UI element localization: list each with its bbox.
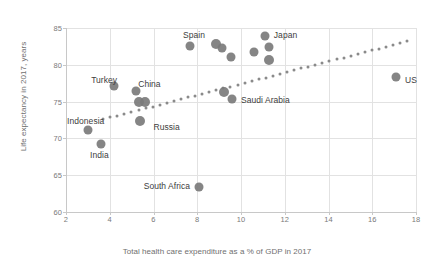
point-label-south-africa: South Africa	[144, 181, 190, 191]
x-tick-mark	[416, 212, 417, 215]
trendline-dot	[399, 42, 402, 45]
trendline-dot	[356, 52, 359, 55]
y-tick-label: 75	[40, 97, 62, 106]
point-label-india: India	[90, 150, 109, 160]
trendline-dot	[130, 111, 133, 114]
point-label-indonesia: Indonesia	[67, 116, 104, 126]
gridline-vertical	[285, 28, 286, 212]
trendline-dot	[201, 92, 204, 95]
data-point[interactable]	[264, 55, 274, 65]
trendline-dot	[194, 94, 197, 97]
point-label-russia: Russia	[154, 122, 180, 132]
x-axis-title: Total health care expenditure as a % of …	[0, 247, 434, 256]
trendline-dot	[349, 54, 352, 57]
x-tick-mark	[241, 212, 242, 215]
plot-area: SpainJapanUSTurkeyChinaSaudi ArabiaIndon…	[66, 28, 416, 212]
trendline-dot	[300, 67, 303, 70]
trendline-dot	[278, 72, 281, 75]
data-point[interactable]	[228, 95, 237, 104]
x-tick-mark	[66, 212, 67, 215]
y-tick-label: 85	[40, 24, 62, 33]
data-point[interactable]	[140, 97, 150, 107]
trendline-dot	[293, 69, 296, 72]
data-point-us[interactable]	[392, 72, 401, 81]
data-point-india[interactable]	[97, 140, 106, 149]
trendline-dot	[321, 62, 324, 65]
point-label-spain: Spain	[183, 30, 205, 40]
x-tick-label: 10	[237, 215, 246, 224]
trendline-dot	[314, 63, 317, 66]
trendline-dot	[158, 103, 161, 106]
y-tick-label: 65	[40, 171, 62, 180]
point-label-turkey: Turkey	[91, 75, 117, 85]
gridline-vertical	[110, 28, 111, 212]
trendline-dot	[109, 116, 112, 119]
point-label-china: China	[138, 79, 160, 89]
y-tick-mark	[63, 175, 66, 176]
trendline-dot	[243, 81, 246, 84]
x-tick-label: 8	[195, 215, 199, 224]
trendline-dot	[123, 112, 126, 115]
data-point[interactable]	[265, 43, 274, 52]
gridline-horizontal	[66, 28, 416, 29]
trendline-dot	[370, 49, 373, 52]
trendline-dot	[137, 109, 140, 112]
data-point[interactable]	[218, 43, 227, 52]
gridline-vertical	[241, 28, 242, 212]
trendline-dot	[342, 56, 345, 59]
data-point-spain[interactable]	[185, 42, 194, 51]
trendline-dot	[187, 96, 190, 99]
trendline-dot	[286, 71, 289, 74]
point-label-saudi-arabia: Saudi Arabia	[241, 95, 290, 105]
trendline-dot	[179, 98, 182, 101]
x-tick-mark	[154, 212, 155, 215]
x-tick-label: 6	[151, 215, 155, 224]
trendline-dot	[257, 78, 260, 81]
trendline-dot	[271, 74, 274, 77]
y-axis-title: Life expectancy in 2017, years	[19, 12, 28, 182]
gridline-vertical	[329, 28, 330, 212]
trendline-dot	[172, 100, 175, 103]
y-tick-label: 80	[40, 60, 62, 69]
trendline-dot	[250, 80, 253, 83]
trendline-dot	[208, 91, 211, 94]
x-tick-mark	[329, 212, 330, 215]
y-tick-label: 60	[40, 208, 62, 217]
y-tick-label: 70	[40, 134, 62, 143]
x-tick-label: 18	[412, 215, 421, 224]
gridline-vertical	[372, 28, 373, 212]
data-point[interactable]	[227, 53, 236, 62]
trendline-dot	[335, 58, 338, 61]
point-label-japan: Japan	[274, 30, 297, 40]
trendline-dot	[215, 89, 218, 92]
x-tick-label: 16	[368, 215, 377, 224]
trendline-dot	[392, 43, 395, 46]
x-tick-label: 4	[108, 215, 112, 224]
trendline-dot	[307, 65, 310, 68]
trendline-dot	[236, 83, 239, 86]
trendline-dot	[116, 114, 119, 117]
trendline-dot	[377, 47, 380, 50]
x-tick-label: 12	[280, 215, 289, 224]
x-tick-label: 14	[324, 215, 333, 224]
y-tick-mark	[63, 138, 66, 139]
y-tick-mark	[63, 212, 66, 213]
data-point-japan[interactable]	[261, 32, 270, 41]
trendline-dot	[385, 45, 388, 48]
gridline-vertical	[416, 28, 417, 212]
data-point[interactable]	[219, 87, 229, 97]
gridline-horizontal	[66, 175, 416, 176]
y-tick-mark	[63, 65, 66, 66]
trendline-dot	[151, 105, 154, 108]
trendline-dot	[165, 101, 168, 104]
data-point[interactable]	[250, 47, 259, 56]
gridline-horizontal	[66, 138, 416, 139]
gridline-horizontal	[66, 65, 416, 66]
data-point-south-africa[interactable]	[195, 182, 204, 191]
x-tick-label: 2	[64, 215, 68, 224]
trendline-dot	[406, 40, 409, 43]
x-tick-mark	[285, 212, 286, 215]
trendline-dot	[328, 60, 331, 63]
trendline-dot	[363, 51, 366, 54]
data-point-russia[interactable]	[135, 116, 145, 126]
